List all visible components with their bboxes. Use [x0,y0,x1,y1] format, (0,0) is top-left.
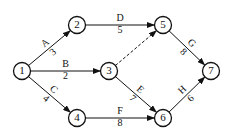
activity-label: D [116,12,123,23]
duration-label: 6 [185,92,196,103]
node-label: 5 [160,18,166,30]
arrow-icon [115,31,156,66]
duration-label: 4 [41,92,52,104]
node-7: 7 [203,63,220,80]
node-label: 6 [160,111,166,123]
duration-label: 7 [127,92,138,104]
node-label: 1 [19,64,25,76]
node-3: 3 [101,63,118,80]
node-6: 6 [155,110,172,127]
node-1: 1 [14,63,31,80]
duration-label: 8 [178,46,189,57]
node-4: 4 [69,110,86,127]
duration-label: 5 [118,24,123,35]
node-label: 3 [106,64,112,76]
node-label: 2 [74,18,80,30]
edge-1-3: B2 [31,58,101,81]
edge-4-6: F8 [86,105,155,128]
edge-1-4: C4 [28,77,70,113]
edge-6-7: H6 [169,77,204,112]
duration-label: 8 [118,117,123,128]
edge-2-5: D5 [86,12,155,35]
network-diagram: A3B2C4D5E7F8G8H6 1234567 [0,0,236,138]
edge-5-7: G8 [169,31,204,65]
node-label: 4 [74,111,80,123]
node-5: 5 [155,17,172,34]
node-label: 7 [208,64,214,76]
activity-label: F [117,105,123,116]
activity-label: B [62,58,69,69]
duration-label: 3 [47,46,58,58]
node-2: 2 [69,17,86,34]
duration-label: 2 [63,70,68,81]
edge-3-5 [115,31,156,66]
